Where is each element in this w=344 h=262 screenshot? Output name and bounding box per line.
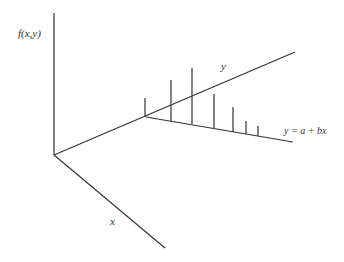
regression-label: y = a + bx bbox=[284, 125, 326, 136]
density-spikes bbox=[145, 68, 258, 136]
y-axis-label: y bbox=[221, 60, 226, 72]
regression-line bbox=[146, 117, 293, 142]
y-axis bbox=[54, 52, 295, 155]
z-axis-label: f(x,y) bbox=[18, 27, 41, 39]
x-axis-label: x bbox=[110, 215, 115, 227]
x-axis bbox=[54, 155, 165, 248]
